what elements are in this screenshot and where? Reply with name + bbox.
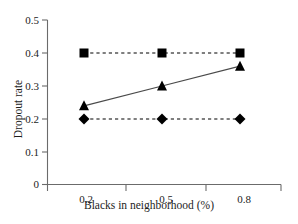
- series-upper: [80, 49, 245, 58]
- x-axis-label: Blacks in neighborhood (%): [0, 199, 298, 211]
- series-upper-marker: [158, 49, 167, 58]
- series-upper-marker: [80, 49, 89, 58]
- chart-figure: 0.5 0.4 0.3 0.2 0.1 0 0.2 0.5 0.8 Dropou…: [0, 0, 298, 224]
- series-lower-marker: [235, 114, 246, 125]
- y-tick-label-0: 0: [6, 178, 39, 190]
- series-upper-marker: [236, 49, 245, 58]
- y-axis-ticks: [42, 20, 48, 185]
- series-lower-marker: [157, 114, 168, 125]
- series-lower: [79, 114, 246, 125]
- series-middle-marker: [235, 61, 245, 71]
- x-axis-ticks: [48, 185, 282, 192]
- plot-area: [0, 0, 298, 224]
- series-lower-marker: [79, 114, 90, 125]
- y-axis-label: Dropout rate: [12, 64, 24, 154]
- y-tick-label-0.5: 0.5: [6, 14, 39, 26]
- series-middle: [79, 61, 245, 111]
- y-tick-label-0.4: 0.4: [6, 47, 39, 59]
